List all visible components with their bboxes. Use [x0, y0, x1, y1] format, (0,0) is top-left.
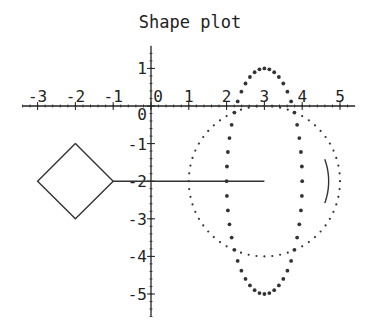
y-tick-label: -3 — [128, 210, 147, 229]
shape-plot: Shape plot -3-2-101234510-1-2-3-4-5 — [0, 0, 380, 333]
y-tick-label: 0 — [137, 105, 147, 124]
y-tick-label: -5 — [128, 285, 147, 304]
x-tick-label: -2 — [66, 87, 85, 106]
x-tick-label: -1 — [104, 87, 123, 106]
x-tick-label: 3 — [260, 87, 270, 106]
y-tick-label: -1 — [128, 135, 147, 154]
x-tick-label: 2 — [222, 87, 232, 106]
x-tick-label: 0 — [153, 87, 163, 106]
plot-canvas: Shape plot -3-2-101234510-1-2-3-4-5 — [0, 0, 380, 333]
y-tick-label: 1 — [137, 59, 147, 78]
x-tick-label: 5 — [335, 87, 345, 106]
x-tick-label: 1 — [184, 87, 194, 106]
plot-title: Shape plot — [139, 12, 241, 32]
arc — [325, 159, 329, 203]
x-tick-label: 4 — [297, 87, 307, 106]
x-tick-label: -3 — [28, 87, 47, 106]
diamond — [38, 144, 114, 219]
y-tick-label: -4 — [128, 247, 147, 266]
